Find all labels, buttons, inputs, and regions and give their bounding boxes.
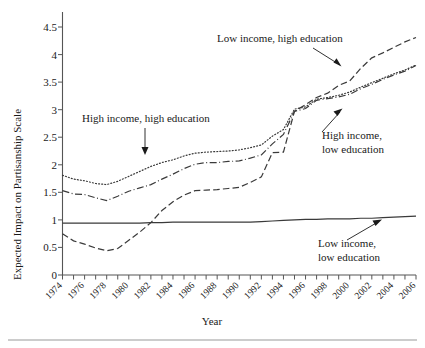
x-tick-label-1974: 1974: [43, 280, 64, 301]
annotation-low-income-low-education-line2: low education: [318, 251, 381, 263]
partisanship-line-chart: Expected Impact on Partisanship Scale 4.…: [0, 0, 425, 348]
annotation-high-income-high-education: High income, high education: [82, 112, 210, 124]
x-tick-label-1994: 1994: [264, 280, 285, 301]
annotation-low-income-high-education: Low income, high education: [217, 32, 343, 44]
annotation-arrow-low-income-high-education: [313, 48, 342, 67]
y-tick-label-4: 4: [52, 49, 58, 61]
y-tick-label-2.5: 2.5: [43, 131, 57, 143]
series-low-income-low-education: [63, 216, 417, 223]
y-tick-label-4.5: 4.5: [43, 21, 57, 33]
annotation-low-income-low-education-line1: Low income,: [318, 237, 376, 249]
y-tick-label-1.5: 1.5: [43, 186, 57, 198]
y-tick-label-3.5: 3.5: [43, 76, 57, 88]
x-tick-label-1976: 1976: [66, 280, 87, 301]
y-axis-title: Expected Impact on Partisanship Scale: [11, 109, 23, 280]
x-tick-label-2004: 2004: [375, 280, 396, 301]
x-axis-tick-labels: 1974197619781980198219841986198819901992…: [43, 280, 417, 301]
x-tick-label-1988: 1988: [198, 280, 219, 301]
x-tick-label-1986: 1986: [176, 280, 197, 301]
annotation-high-income-low-education-line2: low education: [322, 143, 385, 155]
y-tick-label-1: 1: [52, 214, 58, 226]
x-axis-ticks: [63, 275, 417, 280]
x-tick-label-1982: 1982: [132, 280, 153, 301]
x-tick-label-1992: 1992: [242, 280, 263, 301]
y-tick-label-0: 0: [52, 269, 58, 281]
series-high-income-high-education: [63, 65, 417, 185]
x-tick-label-2000: 2000: [331, 280, 352, 301]
x-tick-label-1984: 1984: [154, 280, 175, 301]
y-tick-label-2: 2: [52, 159, 58, 171]
x-tick-label-1980: 1980: [110, 280, 131, 301]
y-axis-ticks: [58, 27, 63, 275]
y-tick-label-3: 3: [52, 104, 58, 116]
y-tick-label-0.5: 0.5: [43, 241, 57, 253]
annotation-arrow-high-income-high-education: [142, 128, 149, 155]
x-tick-label-1996: 1996: [286, 280, 307, 301]
x-axis-title: Year: [202, 315, 223, 327]
x-tick-label-1998: 1998: [309, 280, 330, 301]
x-tick-label-2006: 2006: [397, 280, 418, 301]
x-tick-label-1978: 1978: [88, 280, 109, 301]
annotation-high-income-low-education-line1: High income,: [322, 129, 382, 141]
chart-figure: Expected Impact on Partisanship Scale 4.…: [0, 0, 425, 348]
x-tick-label-2002: 2002: [353, 280, 374, 301]
x-tick-label-1990: 1990: [220, 280, 241, 301]
